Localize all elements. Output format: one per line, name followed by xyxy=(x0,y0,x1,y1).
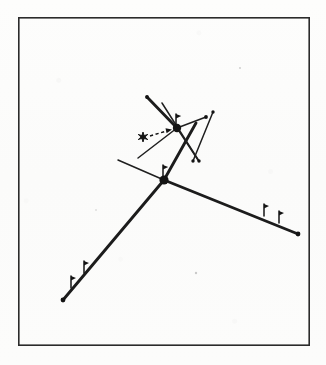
speck xyxy=(239,67,241,69)
edge-lower-southeast xyxy=(164,180,298,234)
star-icon xyxy=(138,132,148,142)
diagram-canvas xyxy=(0,0,326,365)
flag-marker-group xyxy=(71,114,284,288)
endpoint-dot xyxy=(197,159,200,162)
edge-upper-southwest xyxy=(138,128,177,158)
edge-upper-northwest xyxy=(147,97,177,128)
speck xyxy=(95,209,97,211)
edge-lower-northwest xyxy=(118,160,164,180)
figure-page xyxy=(0,0,326,365)
endpoint-dot xyxy=(296,232,301,237)
flag-marker-right-inner xyxy=(264,204,269,216)
flag-marker-right-outer xyxy=(279,211,284,223)
endpoint-dot xyxy=(204,115,208,119)
endpoint-dot xyxy=(211,110,214,113)
edge-crossing-right xyxy=(193,112,213,161)
edge-lower-southwest xyxy=(63,180,164,300)
node-lower xyxy=(159,175,168,184)
endpoint-dot xyxy=(61,298,66,303)
dashed-arrow-shaft xyxy=(150,131,168,137)
endpoint-dot xyxy=(191,159,194,162)
node-upper xyxy=(173,124,181,132)
edge-upper-northeast xyxy=(177,117,206,128)
speck xyxy=(195,272,197,274)
endpoint-dot xyxy=(145,95,149,99)
